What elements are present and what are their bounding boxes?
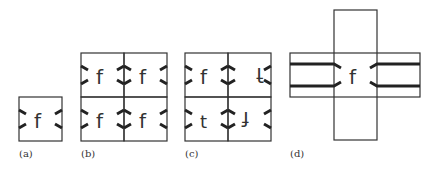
svg-text:f: f — [96, 65, 104, 89]
panel-a: f — [19, 97, 62, 141]
label-d: (d) — [290, 148, 304, 159]
svg-text:f: f — [349, 65, 357, 89]
svg-text:f: f — [200, 65, 208, 89]
svg-text:t: t — [200, 111, 207, 132]
tiling-diagram: f f f f f f f t f f — [0, 0, 436, 169]
svg-text:f: f — [139, 109, 147, 133]
label-c: (c) — [185, 148, 198, 159]
panel-c: f f t f — [185, 53, 271, 141]
svg-text:f: f — [241, 107, 249, 131]
label-b: (b) — [81, 148, 95, 159]
panel-d: f — [290, 10, 420, 140]
svg-text:f: f — [139, 65, 147, 89]
panel-b: f f f f — [81, 53, 167, 141]
svg-text:f: f — [256, 63, 264, 87]
glyph-f: f — [34, 109, 42, 133]
label-a: (a) — [19, 148, 33, 159]
svg-text:f: f — [96, 109, 104, 133]
